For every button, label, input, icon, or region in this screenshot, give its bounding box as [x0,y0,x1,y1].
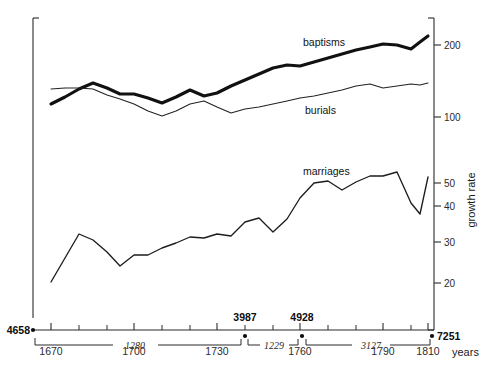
y-axis-title: growth rate [465,172,477,227]
marker-label-4928: 4928 [290,311,314,323]
marker-dot-3987 [243,334,247,338]
ytick-label-50: 50 [444,178,456,189]
left-endpoint-dot [31,328,35,332]
interval-label-3127: 3127 [360,340,382,351]
series-line-marriages [51,172,428,282]
chart-canvas: 200 100 50 40 30 20 growth rate baptisms… [0,0,487,378]
ytick-label-100: 100 [444,112,461,123]
marker-label-3987: 3987 [233,311,257,323]
xtick-label-1760: 1760 [288,345,312,357]
ytick-label-200: 200 [444,40,461,51]
interval-label-1280: 1280 [125,340,145,351]
ytick-label-40: 40 [444,201,456,212]
ytick-label-30: 30 [444,237,456,248]
endpoint-totals: 4658 7251 [7,324,461,342]
series-label-baptisms: baptisms [303,36,345,48]
right-endpoint-label: 7251 [437,330,461,342]
growth-rate-chart: 200 100 50 40 30 20 growth rate baptisms… [0,0,487,378]
bracket-1280-left [35,338,113,345]
ytick-label-20: 20 [444,278,456,289]
rail-markers: 3987 4928 [233,311,314,338]
interval-label-1229: 1229 [264,340,284,351]
series-label-burials: burials [305,104,336,116]
marker-dot-4928 [300,334,304,338]
left-endpoint-label: 4658 [7,324,31,336]
bracket-1229-left [248,339,260,345]
bracket-3127-left [306,339,352,345]
interval-brackets: 1280 1229 3127 [35,338,430,351]
series-group [51,36,428,282]
xtick-label-1670: 1670 [39,345,63,357]
xtick-label-1810: 1810 [416,345,440,357]
series-label-marriages: marriages [303,165,350,177]
series-line-baptisms [51,36,428,104]
bottom-axis: 1670 1700 1730 1760 1790 1810 years [33,323,479,358]
right-axis: 200 100 50 40 30 20 growth rate [428,18,477,330]
x-axis-title: years [452,346,479,358]
right-endpoint-dot [430,334,434,338]
xtick-label-1730: 1730 [205,345,229,357]
left-axis [33,18,39,318]
